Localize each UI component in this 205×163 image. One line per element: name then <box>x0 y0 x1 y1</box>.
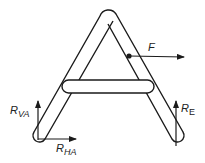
r-e-label: RE <box>181 102 195 117</box>
crossbar <box>62 80 154 93</box>
r-ha-label: RHA <box>56 142 76 157</box>
a-frame-diagram: F RVA RHA RE <box>0 0 205 163</box>
r-va-label: RVA <box>10 104 29 119</box>
force-f-label: F <box>148 41 156 53</box>
force-arrow-icon <box>129 56 184 57</box>
left-leg <box>33 16 113 142</box>
applied-force-f: F <box>126 41 184 59</box>
reaction-r-ha: RHA <box>38 139 76 157</box>
right-leg <box>100 10 184 142</box>
